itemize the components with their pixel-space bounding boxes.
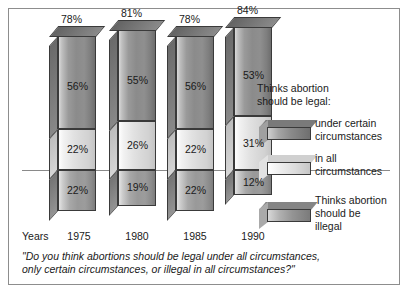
chart-legend: Thinks abortion should be legal: under c… — [257, 82, 402, 240]
legend-heading-line-2: should be legal: — [257, 95, 402, 108]
legend-label-line-1: in all — [315, 152, 382, 165]
segment-value-label-illegal-1985: 22% — [185, 184, 206, 196]
segment-side-face — [49, 170, 58, 221]
chart-caption: "Do you think abortions should be legal … — [22, 250, 322, 276]
segment-value-label-in-all-1990: 31% — [243, 137, 264, 149]
segment-side-face — [225, 27, 234, 126]
bar-total-label-1990: 84% — [237, 4, 258, 16]
segment-value-label-illegal-1980: 19% — [127, 181, 148, 193]
legend-label-line-1: under certain — [315, 117, 382, 130]
swatch-front-face — [267, 162, 311, 175]
legend-item-in-all[interactable]: in all circumstances — [257, 149, 402, 179]
segment-side-face — [49, 36, 58, 139]
swatch-front-face — [267, 209, 311, 222]
legend-heading: Thinks abortion should be legal: — [257, 82, 402, 108]
swatch-front-face — [267, 127, 311, 140]
axis-tick-1980: 1980 — [115, 230, 159, 242]
legend-label-line-2: circumstances — [315, 165, 382, 178]
axis-tick-1975: 1975 — [57, 230, 101, 242]
segment-value-label-under-certain-1985: 56% — [185, 80, 206, 92]
bar-total-label-1985: 78% — [179, 13, 200, 25]
legend-item-under-certain[interactable]: under certain circumstances — [257, 114, 402, 144]
legend-label-line-2: circumstances — [315, 130, 382, 143]
segment-side-face — [109, 30, 118, 131]
legend-item-illegal[interactable]: Thinks abortion should be illegal — [257, 196, 402, 238]
bar-group-1975[interactable]: 78% 56% 22% 22% — [50, 0, 108, 230]
legend-swatch-dark-icon — [259, 120, 311, 140]
axis-title-years: Years — [22, 230, 48, 242]
segment-value-label-under-certain-1980: 55% — [127, 74, 148, 86]
bar-total-label-1975: 78% — [61, 13, 82, 25]
legend-heading-line-1: Thinks abortion — [257, 82, 402, 95]
bar-total-label-1980: 81% — [121, 7, 142, 19]
legend-swatch-mid-icon — [259, 202, 311, 222]
legend-label-under-certain: under certain circumstances — [315, 117, 382, 143]
segment-side-face — [167, 170, 176, 221]
segment-value-label-under-certain-1975: 56% — [67, 80, 88, 92]
caption-line-2: only certain circumstances, or illegal i… — [22, 263, 322, 276]
bar-group-1985[interactable]: 78% 56% 22% 22% — [168, 0, 226, 230]
segment-value-label-under-certain-1990: 53% — [243, 69, 264, 81]
caption-line-1: "Do you think abortions should be legal … — [22, 250, 322, 263]
chart-figure: 78% 56% 22% 22% 81% — [0, 0, 409, 296]
segment-value-label-in-all-1985: 22% — [185, 143, 206, 155]
segment-side-face — [109, 170, 118, 216]
legend-swatch-light-icon — [259, 155, 311, 175]
legend-label-line-1: Thinks abortion — [315, 194, 387, 207]
segment-value-label-illegal-1990: 12% — [243, 176, 264, 188]
segment-value-label-in-all-1975: 22% — [67, 143, 88, 155]
legend-label-in-all: in all circumstances — [315, 152, 382, 178]
legend-label-line-3: illegal — [315, 220, 387, 233]
segment-side-face — [167, 36, 176, 139]
legend-label-illegal: Thinks abortion should be illegal — [315, 194, 387, 233]
axis-tick-1985: 1985 — [173, 230, 217, 242]
legend-label-line-2: should be — [315, 207, 387, 220]
segment-value-label-in-all-1980: 26% — [127, 139, 148, 151]
segment-value-label-illegal-1975: 22% — [67, 184, 88, 196]
bar-group-1980[interactable]: 81% 55% 26% 19% — [110, 0, 168, 230]
